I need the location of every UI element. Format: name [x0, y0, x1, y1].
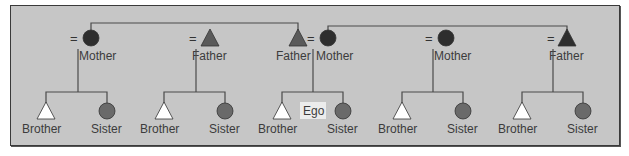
brother-triangle-icon — [513, 102, 531, 119]
brother-label: Brother — [22, 122, 61, 136]
sister-label: Sister — [327, 122, 358, 136]
sister-label: Sister — [91, 122, 122, 136]
sibling-bar-line — [46, 92, 107, 103]
marriage-equals-icon: = — [547, 31, 555, 46]
mother-circle-icon — [438, 30, 454, 46]
brother-triangle-icon — [393, 102, 411, 119]
sister-circle-icon — [575, 103, 591, 119]
sister-label: Sister — [209, 122, 240, 136]
sister-circle-icon — [217, 103, 233, 119]
parent-label: Mother — [434, 49, 471, 63]
marriage-equals-icon: = — [307, 31, 315, 46]
brother-triangle-icon — [155, 102, 173, 119]
sister-circle-icon — [335, 103, 351, 119]
marriage-equals-icon: = — [189, 31, 197, 46]
father-triangle-icon — [289, 29, 307, 46]
marriage-equals-icon: = — [425, 31, 433, 46]
sister-circle-icon — [455, 103, 471, 119]
sister-circle-icon — [99, 103, 115, 119]
sibling-bar-line — [282, 92, 343, 103]
parent-label: Mother — [79, 49, 116, 63]
brother-label: Brother — [140, 122, 179, 136]
parent-label: Father — [549, 49, 584, 63]
mother-circle-icon — [83, 30, 99, 46]
kinship-diagram: MotherFatherFatherMotherMotherFather====… — [0, 0, 629, 156]
sister-label: Sister — [447, 122, 478, 136]
father-triangle-icon — [558, 29, 576, 46]
brother-triangle-icon — [273, 102, 291, 119]
sibling-bar-line — [402, 92, 463, 103]
brother-label: Brother — [378, 122, 417, 136]
brother-label: Brother — [498, 122, 537, 136]
parent-label: Mother — [316, 49, 353, 63]
ego-label: Ego — [303, 104, 325, 118]
sibling-bar-line — [522, 92, 583, 103]
mother-circle-icon — [320, 30, 336, 46]
parent-label: Father — [192, 49, 227, 63]
sister-label: Sister — [567, 122, 598, 136]
father-triangle-icon — [201, 29, 219, 46]
sibling-connector-line — [91, 23, 298, 31]
brother-label: Brother — [258, 122, 297, 136]
brother-triangle-icon — [37, 102, 55, 119]
parent-label: Father — [276, 49, 311, 63]
sibling-bar-line — [164, 92, 225, 103]
marriage-equals-icon: = — [70, 31, 78, 46]
